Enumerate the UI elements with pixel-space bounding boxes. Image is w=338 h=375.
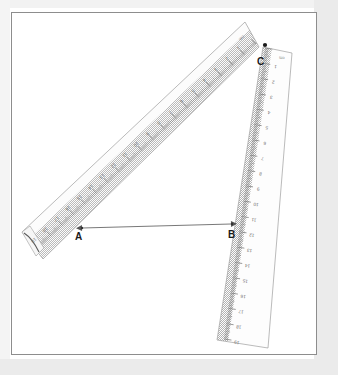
diagram-canvas: 12345678910111213141516171819 cm 1234567… [0,0,338,375]
vertex-dot-B [231,223,233,225]
ruler-vertical: 12345678910111213141516171819 cm [217,47,292,348]
screenshot-stage: 12345678910111213141516171819 cm 1234567… [0,0,338,375]
vertex-label-B: B [228,230,235,240]
ruler-diagonal: 12345678910111213141516171819 cm [22,22,259,259]
vertex-label-C: C [257,57,264,67]
vertex-label-A: A [75,232,82,242]
vertex-dot-C [263,43,267,47]
segment-AB [82,224,231,228]
vertex-dot-A [81,227,83,229]
